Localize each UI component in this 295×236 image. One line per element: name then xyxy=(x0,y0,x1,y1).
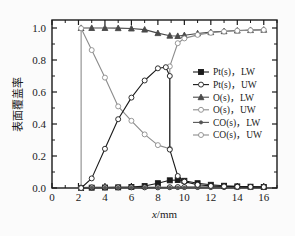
series-marker xyxy=(116,104,121,109)
y-tick-label: 0.4 xyxy=(32,118,46,130)
series-marker xyxy=(79,26,84,31)
series-marker xyxy=(208,30,213,35)
series-marker xyxy=(156,186,159,189)
series-marker xyxy=(103,186,106,189)
y-tick-label: 0.2 xyxy=(32,150,46,162)
series-marker xyxy=(129,118,134,123)
series-marker xyxy=(155,143,160,148)
series-marker xyxy=(89,176,94,181)
series-marker xyxy=(235,28,240,33)
series-marker xyxy=(183,186,186,189)
series-marker xyxy=(175,174,180,179)
legend-marker xyxy=(199,70,204,75)
y-tick-label: 0.0 xyxy=(32,182,46,194)
y-tick-label: 0.6 xyxy=(32,86,46,98)
series-marker xyxy=(167,147,172,152)
x-tick-label: 12 xyxy=(205,191,216,203)
legend-label: CO(s)，UW xyxy=(213,130,262,141)
series-marker xyxy=(175,41,180,46)
plot-area-background xyxy=(52,20,277,188)
legend-marker xyxy=(199,133,204,138)
x-tick-label: 4 xyxy=(102,191,108,203)
legend-label: O(s)，UW xyxy=(213,105,256,116)
series-marker xyxy=(182,36,187,41)
series-marker xyxy=(261,185,266,190)
series-marker xyxy=(208,183,213,188)
legend-label: Pt(s)，UW xyxy=(213,80,257,91)
series-marker xyxy=(143,186,146,189)
series-marker xyxy=(142,132,147,137)
series-marker xyxy=(117,186,120,189)
series-marker xyxy=(167,74,172,79)
y-tick-label: 1.0 xyxy=(32,22,46,34)
series-marker xyxy=(163,65,168,70)
series-marker xyxy=(195,32,200,37)
x-tick-label: 2 xyxy=(76,191,82,203)
legend-marker xyxy=(199,121,202,124)
series-marker xyxy=(248,28,253,33)
x-tick-label: 14 xyxy=(232,191,244,203)
series-marker xyxy=(235,184,240,189)
surface-coverage-line-chart: 02468101214160.00.20.40.60.81.0 Pt(s)，LW… xyxy=(0,0,295,236)
x-tick-label: 6 xyxy=(129,191,135,203)
legend-label: O(s)，LW xyxy=(213,93,254,104)
legend-label: Pt(s)，LW xyxy=(213,67,255,78)
legend-label: CO(s)，LW xyxy=(213,118,260,129)
x-tick-label: 16 xyxy=(258,191,270,203)
legend-marker xyxy=(199,82,204,87)
series-marker xyxy=(102,146,107,151)
legend-marker xyxy=(199,107,204,112)
x-tick-label: 0 xyxy=(49,191,55,203)
series-marker xyxy=(102,75,107,80)
series-marker xyxy=(129,95,134,100)
series-marker xyxy=(195,182,200,187)
series-marker xyxy=(167,178,172,183)
series-marker xyxy=(155,66,160,71)
series-marker xyxy=(222,184,227,189)
series-marker xyxy=(90,186,93,189)
series-marker xyxy=(222,29,227,34)
x-tick-label: 10 xyxy=(179,191,191,203)
series-marker xyxy=(168,186,171,189)
series-marker xyxy=(261,27,266,32)
series-marker xyxy=(248,184,253,189)
y-tick-label: 0.8 xyxy=(32,54,46,66)
series-marker xyxy=(130,186,133,189)
series-marker xyxy=(176,186,179,189)
series-marker xyxy=(79,186,84,191)
series-marker xyxy=(142,78,147,83)
chart-figure: 02468101214160.00.20.40.60.81.0 Pt(s)，LW… xyxy=(0,0,295,236)
x-tick-label: 8 xyxy=(155,191,161,203)
x-axis-title: x/mm xyxy=(151,208,178,220)
y-axis-title: 表面覆盖率 xyxy=(11,77,25,132)
series-marker xyxy=(182,179,187,184)
series-marker xyxy=(89,48,94,53)
series-marker xyxy=(116,117,121,122)
